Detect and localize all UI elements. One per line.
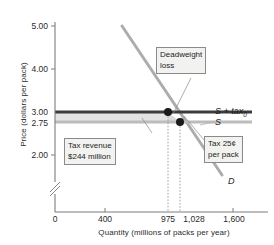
x-tick-label-0: 0	[48, 214, 62, 224]
demand-label: D	[228, 176, 235, 186]
tax-amount-line-1: Tax 25¢	[208, 139, 239, 150]
supply-label: S	[215, 117, 221, 127]
deadweight-leader-line	[173, 78, 191, 114]
y-tick-label-4: 4.00	[14, 64, 48, 74]
tax-amount-callout: Tax 25¢ per pack	[204, 136, 243, 163]
x-axis-title: Quantity (millions of packs per year)	[54, 228, 274, 237]
supply-plus-tax-label-sub: 0	[243, 111, 247, 118]
y-tick-label-5: 5.00	[14, 21, 48, 31]
y-tick-label-275: 2.75	[14, 118, 48, 128]
x-tick-label-975: 975	[155, 214, 181, 224]
tax-incidence-chart: Price (dollars per pack) Quantity (milli…	[0, 0, 274, 245]
y-tick-label-2: 2.00	[14, 150, 48, 160]
tax-amount-leader-line	[184, 116, 204, 140]
marker-equilibrium-no-tax	[176, 118, 184, 126]
x-tick-label-400: 400	[92, 214, 118, 224]
deadweight-loss-line-1: Deadweight	[160, 50, 202, 61]
y-tick-label-3: 3.00	[14, 107, 48, 117]
x-tick-label-1028: 1,028	[179, 214, 209, 224]
tax-revenue-line-1: Tax revenue	[68, 141, 112, 152]
supply-plus-tax-label-text: S + tax	[215, 106, 243, 116]
deadweight-loss-callout: Deadweight loss	[156, 47, 206, 74]
tax-revenue-line-2: $244 million	[68, 152, 112, 163]
marker-equilibrium-with-tax	[164, 108, 172, 116]
tax-amount-line-2: per pack	[208, 150, 239, 161]
tax-revenue-callout: Tax revenue $244 million	[64, 138, 116, 165]
x-tick-label-1600: 1,600	[219, 214, 249, 224]
deadweight-loss-line-2: loss	[160, 61, 202, 72]
